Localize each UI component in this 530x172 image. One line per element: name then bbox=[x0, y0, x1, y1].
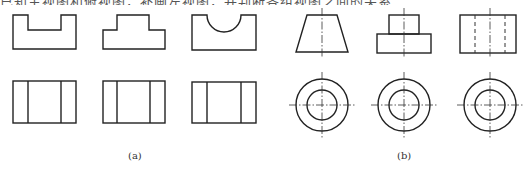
a2-step-front bbox=[103, 15, 165, 49]
a2-top-view bbox=[103, 81, 165, 123]
a1-u-channel-front bbox=[13, 15, 76, 49]
orthographic-views-diagram bbox=[0, 0, 530, 172]
caption-a: (a) bbox=[128, 150, 142, 161]
b3-cylinder-front bbox=[460, 15, 516, 53]
b2-stepped-front bbox=[377, 15, 431, 53]
a3-top-view bbox=[192, 82, 256, 123]
a3-groove-front bbox=[192, 15, 256, 50]
a1-top-view bbox=[13, 81, 76, 123]
caption-b: (b) bbox=[397, 150, 411, 161]
